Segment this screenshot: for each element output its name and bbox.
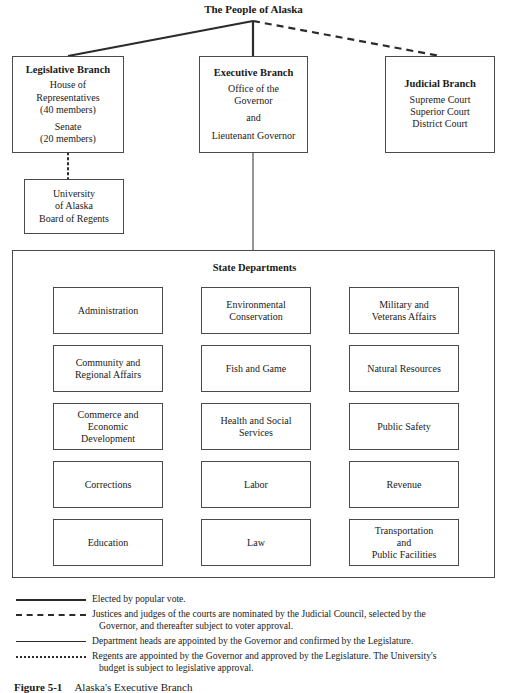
department-label-line: Administration: [78, 305, 139, 317]
legend: Elected by popular vote.Justices and jud…: [14, 593, 496, 677]
legend-row: Elected by popular vote.: [14, 593, 496, 605]
legislative-branch-line-3: (40 members): [40, 104, 96, 116]
legend-text: Elected by popular vote.: [92, 593, 496, 605]
department-box: Community andRegional Affairs: [53, 345, 163, 392]
department-box: Fish and Game: [201, 345, 311, 392]
department-box: Commerce andEconomicDevelopment: [53, 403, 163, 450]
university-line-1: University: [53, 188, 95, 200]
department-box: Labor: [201, 461, 311, 508]
connector-people-to-legislative: [68, 21, 253, 56]
legend-text: Department heads are appointed by the Go…: [92, 635, 496, 647]
department-box: EnvironmentalConservation: [201, 287, 311, 334]
department-label-line: Community and: [76, 357, 141, 369]
department-label-line: Conservation: [229, 311, 282, 323]
university-line-2: of Alaska: [55, 200, 93, 212]
legislative-branch-line-4: Senate: [55, 121, 82, 133]
university-line-3: Board of Regents: [39, 213, 109, 225]
department-label-line: Commerce and: [78, 409, 139, 421]
legislative-branch-title: Legislative Branch: [26, 64, 110, 77]
node-judicial-branch: Judicial Branch Supreme Court Superior C…: [385, 56, 495, 153]
department-label-line: Public Safety: [377, 421, 431, 433]
department-box: Law: [201, 519, 311, 566]
department-box: Revenue: [349, 461, 459, 508]
department-label-line: Natural Resources: [367, 363, 441, 375]
connector-people-to-judicial: [253, 21, 440, 56]
executive-branch-line-2: Governor: [234, 95, 272, 107]
judicial-branch-title: Judicial Branch: [404, 78, 475, 91]
department-box: Corrections: [53, 461, 163, 508]
department-label-line: Revenue: [387, 479, 422, 491]
legend-text: Justices and judges of the courts are no…: [92, 608, 496, 632]
page-title: The People of Alaska: [0, 3, 507, 15]
executive-branch-line-4: Lieutenant Governor: [212, 130, 296, 142]
department-label-line: Law: [247, 537, 265, 549]
department-label-line: Health and Social: [220, 415, 291, 427]
legend-row: Department heads are appointed by the Go…: [14, 635, 496, 647]
legend-line-dotted-icon: [14, 650, 86, 662]
node-legislative-branch: Legislative Branch House of Representati…: [12, 56, 124, 153]
department-label-line: Public Facilities: [372, 549, 437, 561]
department-label-line: Education: [88, 537, 129, 549]
node-university-board-of-regents: University of Alaska Board of Regents: [24, 179, 124, 234]
department-box: Education: [53, 519, 163, 566]
legislative-branch-line-5: (20 members): [40, 133, 96, 145]
legend-line-dashed-icon: [14, 608, 86, 620]
department-box: Administration: [53, 287, 163, 334]
executive-branch-line-1: Office of the: [228, 83, 279, 95]
legend-row: Justices and judges of the courts are no…: [14, 608, 496, 632]
legend-line-solid-thin-icon: [14, 635, 86, 647]
legend-text: Regents are appointed by the Governor an…: [92, 650, 496, 674]
node-executive-branch: Executive Branch Office of the Governor …: [199, 56, 308, 153]
legislative-branch-line-1: House of: [50, 79, 86, 91]
departments-grid: AdministrationEnvironmentalConservationM…: [53, 287, 459, 566]
figure-caption-text: Alaska's Executive Branch: [62, 681, 192, 693]
department-box: TransportationandPublic Facilities: [349, 519, 459, 566]
department-label-line: Transportation: [375, 525, 434, 537]
judicial-branch-line-3: District Court: [412, 118, 467, 130]
department-label-line: Development: [81, 433, 135, 445]
legend-text-continuation: Governor, and thereafter subject to vote…: [92, 620, 496, 632]
department-label-line: Regional Affairs: [75, 369, 141, 381]
department-box: Natural Resources: [349, 345, 459, 392]
department-label-line: Environmental: [226, 299, 285, 311]
department-box: Military andVeterans Affairs: [349, 287, 459, 334]
legend-row: Regents are appointed by the Governor an…: [14, 650, 496, 674]
department-label-line: Economic: [88, 421, 129, 433]
state-departments-container: State Departments AdministrationEnvironm…: [12, 250, 495, 578]
department-label-line: and: [397, 537, 411, 549]
executive-branch-title: Executive Branch: [214, 67, 294, 80]
legislative-branch-line-2: Representatives: [36, 92, 99, 104]
department-label-line: Military and: [379, 299, 429, 311]
judicial-branch-line-1: Supreme Court: [410, 94, 471, 106]
judicial-branch-line-2: Superior Court: [410, 106, 470, 118]
executive-branch-line-3: and: [246, 112, 260, 124]
department-label-line: Labor: [244, 479, 268, 491]
department-label-line: Corrections: [85, 479, 132, 491]
legend-text-continuation: budget is subject to legislative approva…: [92, 662, 496, 674]
legend-line-solid-thick-icon: [14, 593, 86, 605]
org-chart: The People of Alaska Legislative Branch …: [0, 0, 507, 693]
state-departments-title: State Departments: [13, 262, 496, 273]
department-label-line: Services: [239, 427, 273, 439]
department-box: Health and SocialServices: [201, 403, 311, 450]
figure-caption: Figure 5-1Alaska's Executive Branch: [14, 681, 192, 693]
department-box: Public Safety: [349, 403, 459, 450]
department-label-line: Fish and Game: [226, 363, 287, 375]
department-label-line: Veterans Affairs: [372, 311, 437, 323]
figure-caption-label: Figure 5-1: [14, 681, 62, 693]
